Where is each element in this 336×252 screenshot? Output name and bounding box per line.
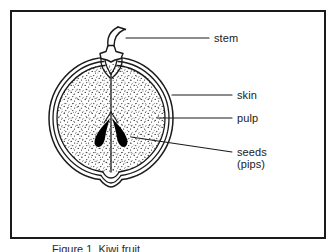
label-seeds: seeds [237,146,267,158]
label-skin: skin [237,89,257,101]
label-pulp: pulp [237,112,258,124]
calyx-top [100,46,123,63]
label-pips: (pips) [237,158,265,170]
stem-stalk [108,27,126,46]
fruit-cross-section-diagram [0,0,336,252]
figure-caption: Figure 1 Kiwi fruit [52,243,140,252]
figure-page: stem skin pulp seeds (pips) Figure 1 Kiw… [0,0,336,252]
label-stem: stem [214,32,238,44]
